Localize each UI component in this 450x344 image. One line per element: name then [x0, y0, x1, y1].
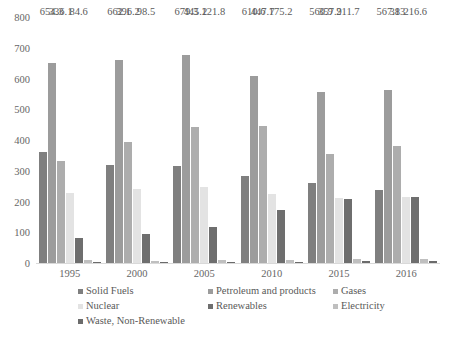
chart-legend: Solid FuelsPetroleum and productsGasesNu…	[78, 286, 408, 331]
legend-item-petroleum-and-products[interactable]: Petroleum and products	[208, 286, 333, 297]
legend-label: Electricity	[341, 301, 385, 312]
plot-area: 0100200300400500600700800 654.3336.184.6…	[36, 18, 440, 264]
x-axis-label-2005: 2005	[171, 269, 238, 280]
bar-waste-non-renewable-2010[interactable]	[295, 18, 303, 264]
bars: 560.9357.9211.7	[308, 18, 370, 264]
bar-value-label: 662.1	[107, 7, 131, 18]
y-axis-tick-300: 300	[0, 167, 30, 178]
bar-renewables-1995[interactable]: 84.6	[75, 18, 83, 264]
bar-nuclear-2010[interactable]	[268, 18, 276, 264]
legend-row-2: NuclearRenewablesElectricity	[78, 301, 408, 316]
bar-solid-fuels-1995[interactable]	[39, 18, 47, 264]
bar-solid-fuels-2000[interactable]	[106, 18, 114, 264]
bar-petroleum-and-products-2010[interactable]: 610.6	[250, 18, 258, 264]
bar-waste-non-renewable-2005[interactable]	[227, 18, 235, 264]
bar-rect	[142, 234, 150, 264]
bar-group-2010: 610.6447.7175.22010	[238, 18, 305, 264]
legend-swatch-icon	[333, 289, 338, 294]
bar-value-label: 560.9	[309, 7, 333, 18]
bar-value-label: 610.6	[242, 7, 266, 18]
bar-solid-fuels-2015[interactable]	[308, 18, 316, 264]
bar-value-label: 211.7	[336, 7, 359, 18]
x-axis-label-2000: 2000	[103, 269, 170, 280]
legend-swatch-icon	[78, 319, 83, 324]
x-axis-label-2015: 2015	[305, 269, 372, 280]
bar-electricity-2000[interactable]	[151, 18, 159, 264]
bar-nuclear-2016[interactable]	[402, 18, 410, 264]
legend-item-renewables[interactable]: Renewables	[208, 301, 333, 312]
legend-row-1: Solid FuelsPetroleum and productsGases	[78, 286, 408, 301]
legend-label: Waste, Non-Renewable	[86, 316, 185, 327]
bar-value-label: 654.3	[40, 7, 64, 18]
legend-item-nuclear[interactable]: Nuclear	[78, 301, 208, 312]
bar-rect	[402, 197, 410, 264]
bar-renewables-2000[interactable]: 98.5	[142, 18, 150, 264]
bar-rect	[48, 63, 56, 264]
bar-gases-2000[interactable]: 396.2	[124, 18, 132, 264]
y-axis-tick-100: 100	[0, 228, 30, 239]
bar-solid-fuels-2005[interactable]	[173, 18, 181, 264]
bar-gases-2005[interactable]: 445.2	[191, 18, 199, 264]
bar-electricity-2015[interactable]	[353, 18, 361, 264]
bar-nuclear-1995[interactable]	[66, 18, 74, 264]
bar-electricity-1995[interactable]	[84, 18, 92, 264]
bar-value-label: 98.5	[137, 7, 155, 18]
x-axis-label-2016: 2016	[373, 269, 440, 280]
bar-rect	[115, 60, 123, 264]
bar-solid-fuels-2016[interactable]	[375, 18, 383, 264]
bar-value-label: 383	[389, 7, 405, 18]
bar-rect	[182, 55, 190, 264]
bar-waste-non-renewable-2015[interactable]	[362, 18, 370, 264]
bar-rect	[375, 190, 383, 264]
bar-value-label: 447.7	[251, 7, 275, 18]
legend-swatch-icon	[78, 304, 83, 309]
bar-value-label: 396.2	[116, 7, 140, 18]
bars: 654.3336.184.6	[39, 18, 101, 264]
legend-item-waste-non-renewable[interactable]: Waste, Non-Renewable	[78, 316, 208, 327]
bars: 567.1383216.6	[375, 18, 437, 264]
bar-renewables-2010[interactable]: 175.2	[277, 18, 285, 264]
bar-rect	[241, 176, 249, 264]
bar-rect	[191, 127, 199, 264]
bar-renewables-2005[interactable]: 121.8	[209, 18, 217, 264]
bar-rect	[106, 165, 114, 264]
bar-waste-non-renewable-1995[interactable]	[93, 18, 101, 264]
x-axis-line	[36, 263, 440, 264]
legend-item-solid-fuels[interactable]: Solid Fuels	[78, 286, 208, 297]
bar-petroleum-and-products-2015[interactable]: 560.9	[317, 18, 325, 264]
bar-rect	[133, 189, 141, 264]
bar-petroleum-and-products-1995[interactable]: 654.3	[48, 18, 56, 264]
bar-rect	[66, 193, 74, 264]
bar-rect	[393, 146, 401, 264]
bar-gases-2010[interactable]: 447.7	[259, 18, 267, 264]
bar-rect	[326, 154, 334, 264]
bar-value-label: 679.3	[175, 7, 199, 18]
bar-nuclear-2000[interactable]	[133, 18, 141, 264]
bar-gases-1995[interactable]: 336.1	[57, 18, 65, 264]
bar-value-label: 216.6	[403, 7, 427, 18]
bar-group-1995: 654.3336.184.61995	[36, 18, 103, 264]
bar-rect	[317, 92, 325, 264]
legend-label: Renewables	[216, 301, 267, 312]
bar-waste-non-renewable-2000[interactable]	[160, 18, 168, 264]
bar-nuclear-2005[interactable]	[200, 18, 208, 264]
bar-rect	[308, 183, 316, 264]
bar-waste-non-renewable-2016[interactable]	[429, 18, 437, 264]
bar-gases-2016[interactable]: 383	[393, 18, 401, 264]
bar-electricity-2010[interactable]	[286, 18, 294, 264]
bar-petroleum-and-products-2000[interactable]: 662.1	[115, 18, 123, 264]
bar-gases-2015[interactable]: 357.9	[326, 18, 334, 264]
legend-item-electricity[interactable]: Electricity	[333, 301, 385, 312]
bar-renewables-2016[interactable]: 216.6	[411, 18, 419, 264]
y-axis-tick-700: 700	[0, 44, 30, 55]
bar-nuclear-2015[interactable]	[335, 18, 343, 264]
bar-petroleum-and-products-2005[interactable]: 679.3	[182, 18, 190, 264]
legend-item-gases[interactable]: Gases	[333, 286, 366, 297]
bar-groups: 654.3336.184.61995662.1396.298.52000679.…	[36, 18, 440, 264]
bar-petroleum-and-products-2016[interactable]: 567.1	[384, 18, 392, 264]
bar-electricity-2016[interactable]	[420, 18, 428, 264]
bar-solid-fuels-2010[interactable]	[241, 18, 249, 264]
bar-electricity-2005[interactable]	[218, 18, 226, 264]
legend-swatch-icon	[333, 304, 338, 309]
bar-renewables-2015[interactable]: 211.7	[344, 18, 352, 264]
